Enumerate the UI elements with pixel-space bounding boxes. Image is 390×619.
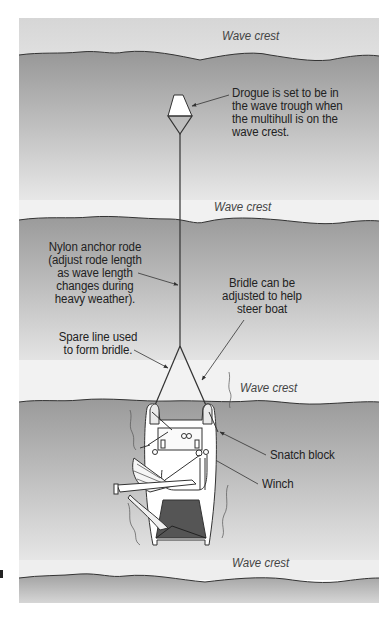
wave-crest-label-2: Wave crest: [214, 200, 271, 214]
snatch-block-callout: Snatch block: [270, 449, 335, 462]
wave-crest-label-3: Wave crest: [240, 381, 297, 395]
diagram: Wave crest Wave crest Wave crest Wave cr…: [0, 0, 390, 619]
wave-crest-label-4: Wave crest: [232, 556, 289, 570]
spare-line-callout: Spare line used to form bridle.: [56, 331, 141, 357]
rode-callout: Nylon anchor rode (adjust rode length as…: [44, 241, 145, 306]
bridle-adjust-callout: Bridle can be adjusted to help steer boa…: [216, 277, 308, 316]
edge-mark: [0, 570, 3, 578]
drogue-callout: Drogue is set to be in the wave trough w…: [232, 87, 343, 139]
winch-callout: Winch: [262, 478, 293, 491]
wave-crest-label-1: Wave crest: [222, 29, 279, 43]
